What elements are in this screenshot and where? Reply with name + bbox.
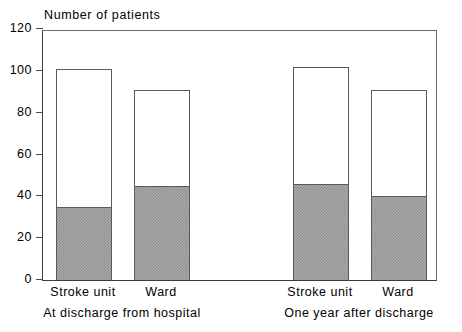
y-axis-title: Number of patients bbox=[44, 8, 160, 22]
bar-shaded-segment bbox=[56, 207, 112, 280]
y-axis-tick: 60 bbox=[36, 154, 43, 155]
y-axis-tick: 40 bbox=[36, 195, 43, 196]
chart-figure: Number of patients 020406080100120 Strok… bbox=[0, 0, 462, 332]
y-axis-tick-label: 80 bbox=[17, 105, 32, 119]
x-axis-group-label: One year after discharge bbox=[284, 306, 434, 320]
bar-shaded-segment bbox=[293, 184, 349, 280]
bar-shaded-segment bbox=[134, 186, 190, 280]
y-axis-tick-label: 20 bbox=[17, 230, 32, 244]
y-axis-tick: 20 bbox=[36, 237, 43, 238]
bar-shaded-segment bbox=[371, 196, 427, 280]
y-axis-tick: 120 bbox=[36, 28, 43, 29]
y-axis-tick: 80 bbox=[36, 112, 43, 113]
y-axis-tick-label: 0 bbox=[25, 272, 32, 286]
y-axis-tick-label: 100 bbox=[10, 63, 32, 77]
y-axis-tick-label: 40 bbox=[17, 188, 32, 202]
x-axis-category-label: Stroke unit bbox=[287, 285, 352, 299]
y-axis-tick: 0 bbox=[36, 279, 43, 280]
plot-area: 020406080100120 bbox=[42, 30, 437, 281]
bar bbox=[371, 90, 427, 280]
x-axis-group-label: At discharge from hospital bbox=[43, 306, 201, 320]
x-axis-category-label: Stroke unit bbox=[50, 285, 115, 299]
y-axis-tick-label: 120 bbox=[10, 21, 32, 35]
y-axis-tick: 100 bbox=[36, 70, 43, 71]
bar bbox=[56, 69, 112, 280]
y-axis-tick-label: 60 bbox=[17, 147, 32, 161]
bar bbox=[134, 90, 190, 280]
x-axis-category-label: Ward bbox=[382, 285, 413, 299]
bar bbox=[293, 67, 349, 280]
x-axis-category-label: Ward bbox=[145, 285, 176, 299]
